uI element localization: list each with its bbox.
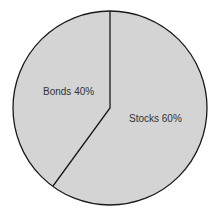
pie-chart: Bonds 40% Stocks 60% [0, 0, 215, 218]
slice-label-stocks: Stocks 60% [129, 113, 182, 124]
slice-label-bonds: Bonds 40% [43, 86, 94, 97]
